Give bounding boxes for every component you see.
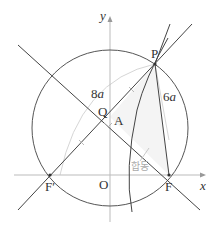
label-q: Q	[98, 104, 108, 119]
label-f: F	[165, 179, 172, 194]
label-congruent: 합동	[131, 161, 149, 172]
label-fprime: F′	[45, 179, 55, 194]
label-x-axis: x	[199, 178, 206, 193]
point-p	[153, 62, 156, 65]
point-f	[167, 173, 170, 176]
geometry-diagram: y x O P Q A F F′ 8a 6a 합동	[0, 0, 214, 228]
y-axis-arrow-icon	[108, 16, 113, 22]
x-axis-arrow-icon	[200, 173, 206, 178]
label-y-axis: y	[98, 8, 106, 23]
label-length-6a: 6a	[163, 89, 177, 104]
label-origin: O	[99, 177, 108, 192]
label-a: A	[114, 113, 124, 128]
label-length-8a: 8a	[91, 86, 105, 101]
point-fprime	[48, 173, 51, 176]
label-p: P	[151, 46, 158, 61]
